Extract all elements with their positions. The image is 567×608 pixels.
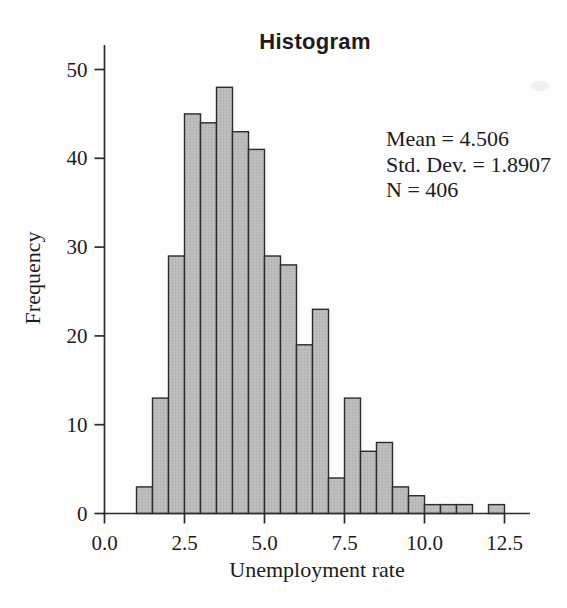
- histogram-bar: [137, 487, 153, 514]
- y-tick-label: 50: [67, 58, 88, 82]
- stat-line-stddev: Std. Dev. = 1.8907: [386, 152, 551, 177]
- histogram-bar: [217, 87, 233, 513]
- histogram-bar: [409, 496, 425, 514]
- histogram-bar: [249, 149, 265, 513]
- histogram-bar: [377, 443, 393, 514]
- y-tick-label: 30: [67, 235, 88, 259]
- y-tick-label: 0: [77, 502, 88, 526]
- histogram-bar: [345, 398, 361, 513]
- histogram-bar: [393, 487, 409, 514]
- histogram-bar: [153, 398, 169, 513]
- x-tick-label: 5.0: [251, 531, 277, 555]
- x-tick-label: 12.5: [486, 531, 523, 555]
- histogram-bar: [281, 265, 297, 514]
- histogram-bar: [169, 256, 185, 514]
- histogram-bar: [201, 123, 217, 514]
- x-tick-label: 10.0: [406, 531, 443, 555]
- x-tick-label: 2.5: [171, 531, 197, 555]
- histogram-bar: [297, 345, 313, 514]
- histogram-bar: [313, 309, 329, 513]
- x-tick-label: 7.5: [331, 531, 357, 555]
- histogram-bar: [329, 478, 345, 514]
- x-axis-title: Unemployment rate: [229, 557, 404, 582]
- histogram-bar: [265, 256, 281, 514]
- stat-line-mean: Mean = 4.506: [386, 126, 509, 151]
- histogram-bar: [441, 505, 457, 514]
- stat-line-n: N = 406: [386, 177, 458, 202]
- histogram-bar: [457, 505, 473, 514]
- y-tick-label: 40: [67, 146, 88, 170]
- histogram-figure: Histogram 010203040500.02.55.07.510.012.…: [0, 0, 567, 608]
- chart-title: Histogram: [259, 29, 371, 54]
- y-tick-label: 10: [67, 413, 88, 437]
- y-axis-title: Frequency: [20, 232, 45, 325]
- histogram-bar: [489, 505, 505, 514]
- chart-canvas: Histogram 010203040500.02.55.07.510.012.…: [0, 0, 567, 608]
- histogram-bar: [425, 505, 441, 514]
- histogram-bar: [233, 132, 249, 514]
- histogram-bar: [185, 114, 201, 514]
- x-tick-label: 0.0: [91, 531, 117, 555]
- y-tick-label: 20: [67, 324, 88, 348]
- histogram-bar: [361, 451, 377, 513]
- scan-smudge: [531, 81, 549, 91]
